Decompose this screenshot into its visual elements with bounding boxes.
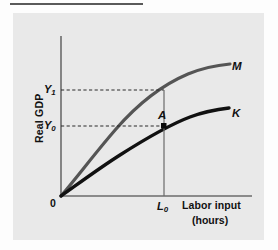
origin-label: 0 (50, 198, 56, 209)
y-tick-label-y1: Y1 (44, 84, 56, 95)
curve-k-path (61, 108, 229, 196)
x-axis-units: (hours) (192, 215, 228, 226)
y-tick-label-y1-sub: 1 (51, 88, 55, 97)
y-tick-label-y0-sub: 0 (51, 124, 55, 133)
point-a-label: A (158, 110, 166, 122)
x-tick-label-l0-sub: 0 (164, 205, 168, 214)
figure-root: Real GDP Y1 Y0 0 L0 Labor input (hours) … (0, 0, 278, 250)
curve-k-label: K (232, 108, 240, 120)
x-tick-label-l0-base: L (157, 200, 164, 212)
y-tick-label-y0: Y0 (44, 120, 56, 131)
point-a-marker (161, 123, 167, 129)
x-tick-label-l0: L0 (157, 201, 168, 212)
x-axis-title: Labor input (182, 200, 241, 211)
y-axis-title: Real GDP (34, 94, 45, 143)
curve-m-label: M (232, 61, 242, 73)
